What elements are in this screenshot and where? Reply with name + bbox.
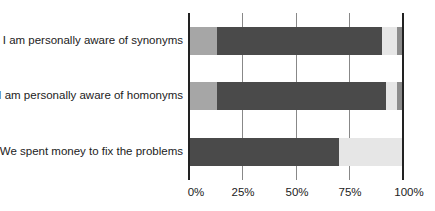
category-label: I am personally aware of homonyms	[0, 89, 183, 101]
bar-homonyms	[189, 82, 403, 110]
x-tick-label: 50%	[285, 186, 308, 198]
bar-segment-segment-3	[382, 27, 397, 55]
bar-spent-money	[189, 138, 403, 166]
bar-segment-segment-1	[189, 82, 217, 110]
x-tick-label: 75%	[338, 186, 361, 198]
axis-right	[402, 13, 404, 180]
bar-segment-segment-2	[217, 27, 382, 55]
x-tick-label: 25%	[231, 186, 254, 198]
x-tick-label: 100%	[394, 186, 423, 198]
x-tick-label: 0%	[188, 186, 205, 198]
bar-segment-segment-3	[339, 138, 403, 166]
bar-segment-segment-1	[189, 27, 217, 55]
bar-synonyms	[189, 27, 403, 55]
category-label: I am personally aware of synonyms	[3, 34, 183, 46]
category-label: We spent money to fix the problems	[0, 145, 183, 157]
bar-segment-segment-2	[217, 82, 386, 110]
bar-segment-segment-3	[386, 82, 397, 110]
bar-segment-segment-2	[189, 138, 339, 166]
plot-area	[189, 13, 403, 180]
axis-left	[188, 13, 190, 180]
